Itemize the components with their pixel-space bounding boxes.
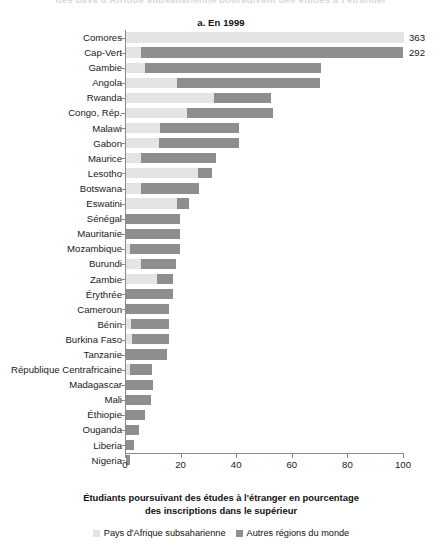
stacked-bar	[126, 364, 404, 374]
bar-row: Eswatini	[0, 196, 442, 211]
bar-row-label: Burkina Faso	[65, 332, 122, 347]
bar-segment-rest-of-world	[126, 380, 154, 390]
bar-segment-rest-of-world	[141, 259, 175, 269]
stacked-bar	[126, 440, 404, 450]
stacked-bar	[126, 274, 404, 284]
bar-row: Éthiopie	[0, 407, 442, 422]
bar-row: Botswana	[0, 181, 442, 196]
y-axis-tick	[121, 415, 125, 416]
chart-legend: Pays d'Afrique subsaharienneAutres régio…	[0, 528, 442, 538]
bar-segment-sub-saharan	[126, 108, 187, 118]
x-axis-tick-label: 100	[395, 459, 411, 470]
bar-segment-rest-of-world	[132, 334, 168, 344]
bar-segment-sub-saharan	[126, 123, 161, 133]
bar-rows: Comores363Cap-Vert292GambieAngolaRwandaC…	[0, 30, 442, 468]
x-axis-tick-label: 40	[231, 459, 242, 470]
bar-segment-sub-saharan	[126, 198, 177, 208]
bar-row-label: Lesotho	[88, 166, 122, 181]
bar-row-label: Tanzanie	[84, 347, 122, 362]
bar-segment-sub-saharan	[126, 334, 133, 344]
bar-row: Érythrée	[0, 287, 442, 302]
bar-row: Malawi	[0, 121, 442, 136]
bar-segment-sub-saharan	[126, 183, 141, 193]
bar-row-label: Bénin	[97, 317, 122, 332]
bar-row: Mauritanie	[0, 226, 442, 241]
x-axis-tick	[292, 454, 293, 458]
bar-row: Cap-Vert292	[0, 45, 442, 60]
bar-row: Rwanda	[0, 90, 442, 105]
bar-row-label: Nigeria	[92, 453, 122, 468]
y-axis-tick	[121, 143, 125, 144]
bar-row-label: Liberia	[93, 438, 122, 453]
x-axis-tick	[347, 454, 348, 458]
y-axis-tick	[121, 340, 125, 341]
bar-row-label: Eswatini	[86, 196, 122, 211]
bar-segment-sub-saharan	[126, 78, 177, 88]
y-axis-tick	[121, 249, 125, 250]
x-axis-tick-label: 80	[342, 459, 353, 470]
bar-row: Ouganda	[0, 422, 442, 437]
bar-segment-sub-saharan	[126, 168, 198, 178]
bar-row: Tanzanie	[0, 347, 442, 362]
bar-row: Cameroun	[0, 302, 442, 317]
stacked-bar	[126, 395, 404, 405]
bar-row: Mozambique	[0, 241, 442, 256]
bar-segment-rest-of-world	[126, 289, 173, 299]
y-axis-tick	[121, 324, 125, 325]
bar-row: Madagascar	[0, 377, 442, 392]
y-axis-tick	[121, 158, 125, 159]
bar-segment-sub-saharan	[126, 47, 142, 57]
bar-segment-sub-saharan	[126, 153, 141, 163]
bar-row: Congo, Rép.	[0, 105, 442, 120]
x-axis-tick-label: 0	[122, 459, 127, 470]
y-axis-tick	[121, 370, 125, 371]
bar-value-label: 292	[409, 45, 425, 60]
bar-segment-rest-of-world	[157, 274, 172, 284]
stacked-bar	[126, 78, 404, 88]
stacked-bar	[126, 334, 404, 344]
stacked-bar	[126, 319, 404, 329]
stacked-bar	[126, 93, 404, 103]
bar-row: Burkina Faso	[0, 332, 442, 347]
bar-row: Gabon	[0, 136, 442, 151]
bar-row-label: Sénégal	[87, 211, 122, 226]
bar-segment-rest-of-world	[198, 168, 212, 178]
bar-row-label: Mali	[104, 392, 122, 407]
bar-row-label: Comores	[83, 30, 122, 45]
stacked-bar	[126, 123, 404, 133]
bar-row-label: Burundi	[89, 256, 122, 271]
bar-segment-rest-of-world	[214, 93, 271, 103]
stacked-bar	[126, 304, 404, 314]
y-axis-tick	[121, 113, 125, 114]
stacked-bar	[126, 168, 404, 178]
stacked-bar	[126, 455, 404, 465]
bar-segment-rest-of-world	[159, 138, 240, 148]
y-axis-tick	[121, 38, 125, 39]
bar-row: Zambie	[0, 272, 442, 287]
y-axis-tick	[121, 355, 125, 356]
y-axis-tick	[121, 294, 125, 295]
bar-segment-sub-saharan	[126, 63, 145, 73]
bar-row-label: Congo, Rép.	[68, 105, 122, 120]
x-axis-tick	[125, 454, 126, 458]
y-axis-tick	[121, 189, 125, 190]
bar-segment-rest-of-world	[141, 47, 403, 57]
axis-caption: Étudiants poursuivant des études à l'étr…	[20, 491, 422, 517]
stacked-bar	[126, 32, 404, 42]
legend-item-sub_saharan: Pays d'Afrique subsaharienne	[93, 528, 226, 538]
bar-segment-rest-of-world	[130, 364, 152, 374]
bar-segment-rest-of-world	[187, 108, 273, 118]
bar-segment-rest-of-world	[126, 214, 180, 224]
bar-row: Comores363	[0, 30, 442, 45]
bar-segment-rest-of-world	[126, 229, 180, 239]
bar-row-label: Mozambique	[67, 241, 122, 256]
stacked-bar	[126, 183, 404, 193]
stacked-bar	[126, 425, 404, 435]
figure-panel: des pays d'Afrique subsaharienne poursui…	[0, 0, 442, 548]
x-axis-tick-label: 20	[175, 459, 186, 470]
y-axis-tick	[121, 264, 125, 265]
bar-row-label: Rwanda	[87, 90, 122, 105]
axis-caption-line-1: Étudiants poursuivant des études à l'étr…	[83, 492, 359, 503]
y-axis-tick	[121, 68, 125, 69]
bar-row: Liberia	[0, 438, 442, 453]
